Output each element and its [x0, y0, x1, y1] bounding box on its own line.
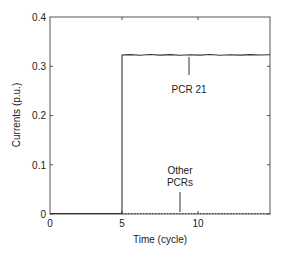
y-axis-label: Currents (p.u.)	[11, 83, 22, 147]
x-axis-label: Time (cycle)	[133, 234, 187, 245]
y-tick-label: 0.2	[32, 110, 46, 121]
y-tick-label: 0	[40, 209, 46, 220]
plot-frame	[50, 17, 270, 214]
y-tick-label: 0.1	[32, 160, 46, 171]
other-pcrs-annotation-line1: Other	[167, 165, 193, 176]
x-tick-label: 0	[47, 218, 53, 229]
x-tick-label: 10	[192, 218, 204, 229]
chart: 0.4 0.3 0.2 0.1 0 0 5 10 Time (cycle) Cu…	[0, 0, 284, 259]
series-pcr21	[50, 55, 270, 214]
pcr21-annotation: PCR 21	[171, 84, 206, 95]
y-tick-label: 0.4	[32, 12, 46, 23]
other-pcrs-annotation-line2: PCRs	[167, 177, 193, 188]
y-ticks	[50, 66, 270, 214]
x-tick-label: 5	[119, 218, 125, 229]
y-tick-label: 0.3	[32, 61, 46, 72]
